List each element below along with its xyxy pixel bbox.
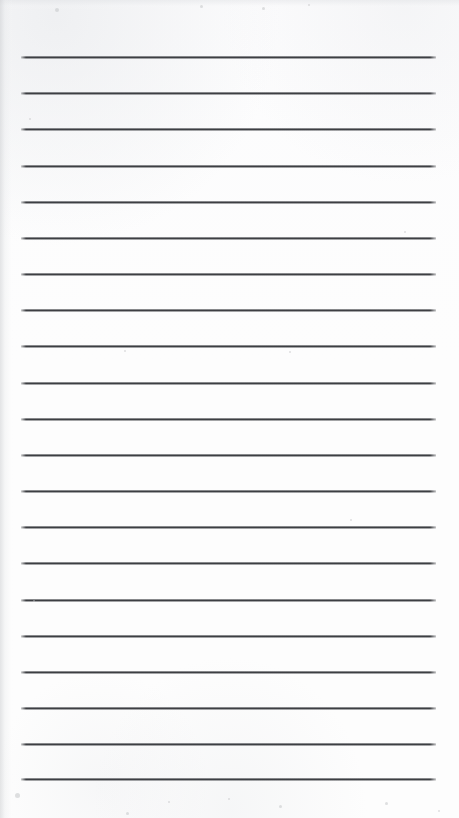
ruled-line (21, 707, 436, 710)
ruled-line (21, 345, 436, 348)
ruled-line (21, 309, 436, 312)
ruled-line-stroke (21, 562, 436, 565)
ruled-line-stroke (21, 92, 436, 95)
ruled-line-stroke (21, 599, 436, 602)
ruled-line-stroke (21, 743, 436, 746)
ruled-line-stroke (21, 201, 436, 204)
ruled-line-stroke (21, 382, 436, 385)
ruled-line (21, 418, 436, 421)
ruled-line (21, 454, 436, 457)
ruled-line (21, 599, 436, 602)
ruled-line-stroke (21, 309, 436, 312)
ruled-line-stroke (21, 490, 436, 493)
ruled-line-stroke (21, 671, 436, 674)
ruled-line (21, 778, 436, 781)
ruled-line-stroke (21, 778, 436, 781)
ruled-line (21, 743, 436, 746)
ruled-line (21, 56, 436, 59)
ruled-line-stroke (21, 707, 436, 710)
ruled-line (21, 92, 436, 95)
ruled-line-stroke (21, 237, 436, 240)
ruled-line (21, 635, 436, 638)
ruled-line (21, 201, 436, 204)
ruled-line (21, 237, 436, 240)
ruled-line (21, 490, 436, 493)
ruled-line (21, 526, 436, 529)
ruled-line-stroke (21, 128, 436, 131)
ruled-line-stroke (21, 273, 436, 276)
ruled-line (21, 382, 436, 385)
ruled-line-stroke (21, 56, 436, 59)
scanned-page (0, 0, 459, 818)
ruled-line (21, 128, 436, 131)
ruled-line (21, 562, 436, 565)
ruled-line-stroke (21, 165, 436, 168)
ruled-line (21, 273, 436, 276)
ruled-line-stroke (21, 635, 436, 638)
ruled-lines-layer (0, 0, 459, 818)
ruled-line-stroke (21, 454, 436, 457)
ruled-line (21, 671, 436, 674)
ruled-line-stroke (21, 526, 436, 529)
ruled-line-stroke (21, 345, 436, 348)
ruled-line (21, 165, 436, 168)
ruled-line-stroke (21, 418, 436, 421)
